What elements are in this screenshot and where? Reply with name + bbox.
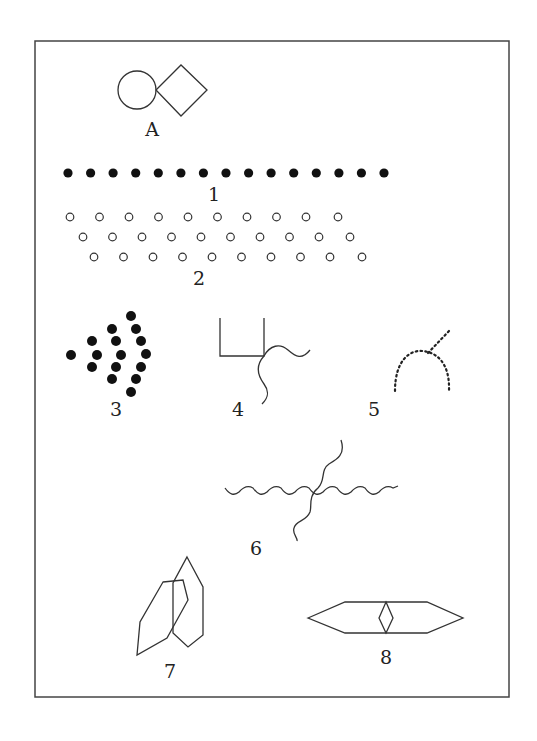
item-7	[137, 557, 203, 655]
label-4: 4	[232, 398, 244, 420]
item-5	[395, 331, 449, 391]
hexagon-right	[173, 557, 203, 647]
circle-shape	[118, 71, 156, 109]
item-3	[66, 311, 151, 397]
diagram-figure: A 1 2 3 4	[0, 0, 537, 741]
label-7: 7	[164, 660, 176, 682]
diamond-shape	[156, 65, 207, 116]
item-6	[225, 440, 398, 541]
label-3: 3	[110, 398, 122, 420]
label-1: 1	[208, 183, 220, 205]
elongated-hexagon	[308, 602, 463, 633]
label-5: 5	[368, 398, 380, 420]
item-1: 1	[63, 168, 388, 205]
item-4	[220, 318, 310, 404]
label-a: A	[144, 118, 159, 140]
center-diamond	[379, 602, 393, 633]
label-2: 2	[193, 267, 205, 289]
label-6: 6	[250, 537, 262, 559]
figure-frame	[35, 41, 509, 697]
item-2	[66, 213, 366, 261]
hexagon-left	[137, 580, 188, 655]
item-a: A	[118, 65, 207, 140]
item-8	[308, 602, 463, 633]
label-8: 8	[380, 646, 392, 668]
